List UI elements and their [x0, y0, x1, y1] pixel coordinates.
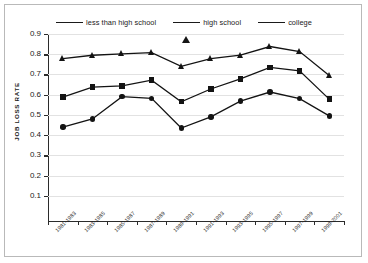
- data-point: [238, 76, 243, 81]
- chart-legend: less than high school high school colleg…: [5, 14, 363, 30]
- x-axis-tick: [48, 221, 49, 225]
- y-axis-tick-label: 0.8: [7, 49, 41, 58]
- legend-label: less than high school: [86, 18, 156, 27]
- data-point: [296, 48, 302, 54]
- data-point: [90, 116, 95, 121]
- legend-label: college: [288, 18, 312, 27]
- data-point: [267, 65, 272, 70]
- data-point: [297, 68, 302, 73]
- data-point: [266, 43, 272, 49]
- x-axis-tick: [285, 221, 286, 225]
- data-point: [208, 114, 213, 119]
- legend-swatch-line: [258, 18, 285, 27]
- y-axis-tick-label: 0.3: [7, 150, 41, 159]
- data-point: [327, 113, 332, 118]
- legend-item-college[interactable]: college: [258, 18, 312, 27]
- x-axis-tick: [137, 221, 138, 225]
- x-axis-tick: [255, 221, 256, 225]
- data-point: [267, 89, 272, 94]
- data-point: [179, 125, 184, 130]
- series-lines: [48, 34, 344, 216]
- x-axis-tick: [344, 221, 345, 225]
- data-point: [149, 77, 154, 82]
- series-line-1: [63, 47, 329, 76]
- x-axis-tick: [107, 221, 108, 225]
- y-axis-tick-label: 0.6: [7, 90, 41, 99]
- data-point: [326, 72, 332, 78]
- x-axis-tick: [226, 221, 227, 225]
- legend-label: high school: [203, 18, 241, 27]
- data-point: [60, 94, 65, 99]
- data-point: [119, 83, 124, 88]
- x-axis-tick: [196, 221, 197, 225]
- data-point: [90, 84, 95, 89]
- x-axis-tick: [78, 221, 79, 225]
- data-point: [148, 49, 154, 55]
- data-point: [238, 98, 243, 103]
- data-point: [59, 55, 65, 61]
- legend-swatch-line: [56, 18, 83, 27]
- data-point: [237, 52, 243, 58]
- y-axis-tick-label: 0.1: [7, 191, 41, 200]
- legend-swatch-line: [173, 18, 200, 27]
- y-axis-tick-label: 0.2: [7, 171, 41, 180]
- legend-item-high-school[interactable]: high school: [173, 18, 241, 27]
- data-point: [208, 86, 213, 91]
- data-point: [207, 55, 213, 61]
- plot-area: [48, 34, 344, 216]
- data-point: [327, 96, 332, 101]
- y-axis-tick-label: 0.4: [7, 130, 41, 139]
- data-point: [179, 99, 184, 104]
- x-axis-tick: [166, 221, 167, 225]
- y-axis-tick-label: 0.7: [7, 69, 41, 78]
- y-axis-tick-label: 0.5: [7, 110, 41, 119]
- x-axis-tick: [314, 221, 315, 225]
- legend-item-less-than-high-school[interactable]: less than high school: [56, 18, 156, 27]
- y-axis-tick-label: 0.9: [7, 29, 41, 38]
- data-point: [60, 124, 65, 129]
- data-point: [178, 63, 184, 69]
- chart-frame: less than high school high school colleg…: [4, 4, 362, 257]
- series-line-0: [63, 92, 329, 128]
- data-point: [118, 50, 124, 56]
- data-point: [89, 52, 95, 58]
